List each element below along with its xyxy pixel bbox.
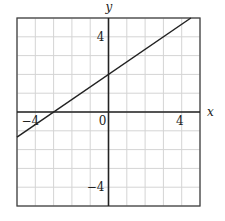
x-axis-label: x <box>207 105 214 119</box>
x-tick-label: 4 <box>176 114 184 128</box>
x-tick-label: −4 <box>21 114 39 128</box>
coordinate-plane: −4044−4 x y <box>0 0 225 221</box>
y-tick-label: −4 <box>87 180 105 194</box>
x-tick-label: 0 <box>99 114 107 128</box>
y-tick-label: 4 <box>97 30 105 44</box>
y-axis-label: y <box>105 0 113 14</box>
